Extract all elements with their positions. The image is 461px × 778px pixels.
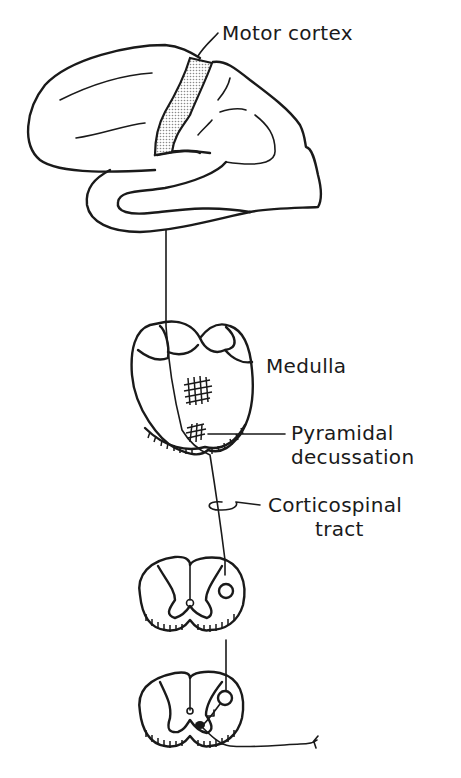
label-pyramidal-decussation-2: decussation bbox=[291, 446, 414, 468]
spinal-cord-upper-section bbox=[139, 557, 244, 632]
reticular-hatch bbox=[184, 376, 212, 405]
tract-cross-section-upper bbox=[219, 584, 233, 598]
label-pyramidal-decussation-1: Pyramidal bbox=[291, 422, 394, 444]
motor-cortex-leader bbox=[198, 33, 218, 56]
tract-cross-section-lower bbox=[218, 691, 232, 705]
label-corticospinal-tract-2: tract bbox=[315, 518, 364, 540]
spinal-cord-lower-section bbox=[139, 672, 243, 748]
label-corticospinal-tract-1: Corticospinal bbox=[268, 494, 402, 516]
corticospinal-diagram bbox=[0, 0, 461, 778]
label-medulla: Medulla bbox=[266, 355, 346, 377]
motor-cortex-region bbox=[155, 58, 212, 155]
label-motor-cortex: Motor cortex bbox=[222, 22, 353, 44]
brain-lateral-view bbox=[28, 45, 321, 232]
